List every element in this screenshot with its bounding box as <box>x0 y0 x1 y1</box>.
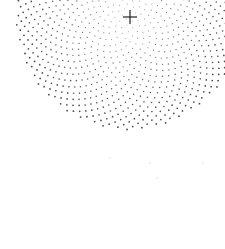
dot <box>199 84 201 86</box>
dot <box>120 105 122 107</box>
dot <box>193 76 195 78</box>
dot <box>111 88 112 89</box>
dot <box>206 29 208 31</box>
dot <box>47 75 49 77</box>
dot <box>106 91 108 93</box>
dot <box>80 37 81 38</box>
dot <box>92 63 93 64</box>
dot <box>115 108 117 110</box>
dot <box>127 3 128 4</box>
dot <box>105 62 106 63</box>
dot <box>155 115 157 117</box>
dot <box>211 80 213 82</box>
dot <box>105 1 106 2</box>
dot <box>31 43 33 45</box>
dot <box>188 0 189 1</box>
dot <box>150 62 151 63</box>
dot <box>90 97 92 99</box>
dot <box>73 61 74 62</box>
dot <box>198 40 199 41</box>
dot <box>119 20 120 21</box>
dot <box>70 80 72 82</box>
dot <box>216 20 218 22</box>
dot <box>192 8 193 9</box>
dot <box>177 41 178 42</box>
dot <box>78 15 79 16</box>
dot <box>212 68 214 70</box>
dot <box>68 61 70 63</box>
dot <box>24 53 26 55</box>
dot <box>66 98 68 100</box>
dot <box>112 116 114 118</box>
dot <box>220 5 222 7</box>
dot <box>153 27 154 28</box>
dot <box>150 92 152 94</box>
dot <box>166 57 167 58</box>
dot <box>60 103 62 105</box>
dot <box>211 56 213 58</box>
dot <box>187 99 189 101</box>
dot <box>97 55 98 56</box>
dot <box>212 62 214 64</box>
dot <box>121 27 122 28</box>
dot <box>139 25 140 26</box>
dot <box>164 91 166 93</box>
dot <box>203 24 205 26</box>
dot <box>45 80 47 82</box>
dot <box>160 27 161 28</box>
dot <box>42 72 44 74</box>
dot <box>195 96 197 98</box>
dot <box>161 97 163 99</box>
dot <box>73 37 74 38</box>
dot <box>205 79 207 81</box>
dot <box>136 53 137 54</box>
dot <box>98 23 99 24</box>
dot <box>134 82 135 83</box>
dot <box>102 125 104 127</box>
dot <box>92 1 93 2</box>
dot <box>39 16 41 18</box>
dot <box>162 64 163 65</box>
dot <box>38 83 40 85</box>
dot <box>205 62 207 64</box>
dot <box>106 84 107 85</box>
dot <box>151 10 152 11</box>
dot <box>78 26 79 27</box>
dot <box>150 69 151 70</box>
dot <box>48 7 50 9</box>
dot <box>180 16 181 17</box>
dot <box>110 21 111 22</box>
dot <box>141 127 143 129</box>
dot <box>98 43 99 44</box>
dot <box>72 74 74 76</box>
dot <box>189 49 190 50</box>
dot <box>224 67 225 69</box>
dot <box>95 96 97 98</box>
dot <box>97 49 98 50</box>
dot <box>126 60 127 61</box>
dot <box>52 28 54 30</box>
dot <box>52 1 54 3</box>
dot <box>78 55 79 56</box>
dot <box>132 1 133 2</box>
dot <box>101 94 103 96</box>
dot <box>39 78 41 80</box>
dot <box>126 25 127 26</box>
dot <box>146 86 147 87</box>
dot <box>90 52 91 53</box>
dot <box>217 80 219 82</box>
dot <box>46 54 48 56</box>
dot <box>162 39 163 40</box>
dot <box>128 79 129 80</box>
dot <box>142 79 143 80</box>
dot <box>90 103 92 105</box>
dot <box>72 42 73 43</box>
dot <box>210 5 212 7</box>
dot <box>81 5 82 6</box>
dot <box>50 49 52 51</box>
dot <box>151 119 153 121</box>
dot <box>183 31 184 32</box>
dot <box>125 101 127 103</box>
dot <box>115 67 116 68</box>
dot <box>84 104 86 106</box>
